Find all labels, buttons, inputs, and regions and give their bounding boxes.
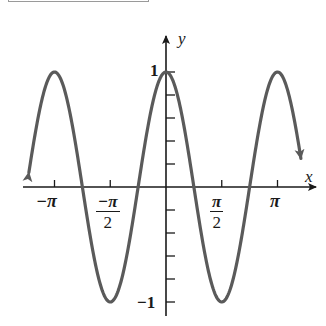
y-tick-label-1: 1 — [150, 62, 159, 79]
cosine-graph — [0, 0, 326, 326]
x-tick-label-neg-half-pi: −π 2 — [96, 193, 120, 231]
fraction-denominator: 2 — [104, 212, 113, 231]
fraction-numerator: π — [210, 193, 223, 212]
y-tick-label-neg1: −1 — [137, 294, 155, 311]
x-tick-label-half-pi: π 2 — [210, 193, 223, 231]
x-axis-label: x — [305, 168, 313, 185]
x-tick-label-pi: π — [270, 192, 280, 210]
fraction-denominator: 2 — [212, 212, 221, 231]
y-axis-label: y — [178, 30, 186, 47]
x-tick-label-neg-pi: −π — [36, 192, 57, 210]
fraction-numerator: −π — [96, 193, 120, 212]
